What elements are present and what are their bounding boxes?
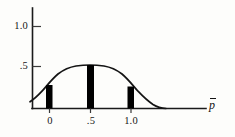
x-tick-label-0-5: .5 xyxy=(79,116,103,127)
prob-bar-at-1-0 xyxy=(128,87,135,109)
plot-canvas xyxy=(0,0,235,137)
distribution-figure: 1.0 .5 0 .5 1.0 p xyxy=(0,0,235,137)
y-tick-label-1-0: 1.0 xyxy=(8,21,28,32)
y-tick-label-0-5: .5 xyxy=(8,61,28,72)
prob-bar-at-0 xyxy=(46,85,53,109)
x-tick-label-1-0: 1.0 xyxy=(119,116,143,127)
x-tick-label-0: 0 xyxy=(38,116,62,127)
x-axis-variable-label: p xyxy=(209,98,215,111)
prob-bar-at-0-5 xyxy=(87,65,94,109)
p-bar-glyph: p xyxy=(209,98,215,111)
